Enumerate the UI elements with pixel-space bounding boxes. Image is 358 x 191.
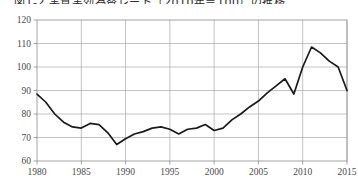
x-tick-label: 2000 (205, 167, 224, 177)
x-tick-marks-group (37, 161, 347, 165)
y-tick-label: 60 (22, 156, 32, 166)
y-tick-label: 70 (22, 133, 32, 143)
y-tick-label: 80 (22, 109, 32, 119)
x-tick-label: 1990 (116, 167, 135, 177)
chart-figure: 図1-2 実質実効為替レート（2010年＝100）の推移 60708090100… (0, 0, 358, 191)
x-tick-label: 2015 (338, 167, 357, 177)
y-tick-label: 110 (17, 39, 31, 49)
y-tick-label: 100 (17, 62, 32, 72)
y-tick-marks-group (34, 20, 38, 161)
x-tick-label: 1980 (28, 167, 47, 177)
gridlines-group (37, 20, 347, 161)
y-tick-label: 90 (22, 86, 32, 96)
x-axis-tick-labels: 19801985199019952000200520102015 (28, 167, 357, 177)
x-tick-label: 2010 (293, 167, 312, 177)
x-tick-label: 2005 (249, 167, 268, 177)
line-chart-plot: 60708090100110120 1980198519901995200020… (0, 0, 358, 191)
x-tick-label: 1995 (160, 167, 179, 177)
data-series-line (37, 47, 347, 145)
y-tick-label: 120 (17, 15, 32, 25)
y-axis-tick-labels: 60708090100110120 (17, 15, 32, 166)
x-tick-label: 1985 (72, 167, 91, 177)
